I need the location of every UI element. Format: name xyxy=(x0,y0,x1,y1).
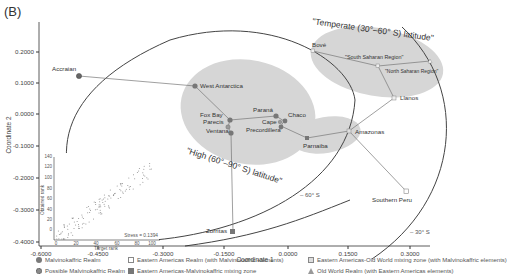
svg-text:0.0000: 0.0000 xyxy=(15,110,34,117)
svg-text:40: 40 xyxy=(47,207,53,212)
legend-item-ea-oldworld-mixing: Eastern Americas-Old World mixing zone (… xyxy=(308,257,507,263)
svg-text:Precordillera: Precordillera xyxy=(246,126,281,133)
svg-text:Parecis: Parecis xyxy=(203,118,224,125)
svg-text:0: 0 xyxy=(49,227,52,232)
point-llanos xyxy=(392,96,396,100)
svg-text:-0.3000: -0.3000 xyxy=(153,250,175,257)
svg-text:– 60° S: – 60° S xyxy=(300,192,320,198)
filled-square-icon xyxy=(128,268,134,274)
svg-text:Bové: Bové xyxy=(312,41,327,48)
svg-text:0.2000: 0.2000 xyxy=(15,48,34,55)
svg-text:– 30° S: – 30° S xyxy=(410,229,430,235)
boundary-high-lower xyxy=(185,200,350,246)
svg-text:0: 0 xyxy=(55,241,58,246)
svg-text:-0.4000: -0.4000 xyxy=(13,238,35,245)
x-axis-ticks: -0.6000 -0.4500 -0.3000 -0.1500 0.0000 0… xyxy=(31,246,421,257)
svg-text:100: 100 xyxy=(44,175,52,180)
hatched-circle-icon xyxy=(36,268,42,274)
point-accraian xyxy=(76,73,81,78)
svg-text:Zorritas: Zorritas xyxy=(206,227,227,234)
svg-text:Accraian: Accraian xyxy=(52,65,77,72)
point-zorritas xyxy=(230,229,235,234)
svg-text:120: 120 xyxy=(44,164,52,169)
svg-text:Target rank: Target rank xyxy=(94,246,119,251)
hatched-square-icon xyxy=(308,257,314,263)
svg-text:0.0000: 0.0000 xyxy=(279,250,298,257)
filled-circle-icon xyxy=(36,257,42,263)
svg-text:Parnaiba: Parnaiba xyxy=(303,142,328,149)
point-west-antarctica xyxy=(192,83,197,88)
svg-text:-0.4500: -0.4500 xyxy=(88,250,110,257)
svg-text:Chaco: Chaco xyxy=(288,111,306,118)
svg-text:-0.1000: -0.1000 xyxy=(13,142,35,149)
svg-text:Southern Peru: Southern Peru xyxy=(372,196,412,203)
legend-item-possible-malvinokaffric: Possible Malvinokaffric Realm xyxy=(36,268,125,274)
point-fox-bay xyxy=(227,117,232,122)
svg-text:100: 100 xyxy=(148,241,156,246)
svg-text:0.1000: 0.1000 xyxy=(15,79,34,86)
svg-text:West Antarctica: West Antarctica xyxy=(200,82,243,89)
svg-text:0.3000: 0.3000 xyxy=(401,250,420,257)
svg-text:"South Saharan Region": "South Saharan Region" xyxy=(345,54,403,60)
svg-text:140: 140 xyxy=(44,154,52,159)
point-cape xyxy=(278,120,282,124)
svg-text:"North Saharan Region": "North Saharan Region" xyxy=(385,68,439,74)
y-axis-label: Coordinate 2 xyxy=(5,116,12,154)
svg-text:-0.1500: -0.1500 xyxy=(214,250,236,257)
point-southern-peru xyxy=(404,189,409,194)
inset-shepard-plot: 0 20 40 60 80 100 120 140 0 20 40 60 80 … xyxy=(40,153,160,251)
svg-text:Fox Bay: Fox Bay xyxy=(200,111,224,118)
legend-item-malvinokaffric: Malvinokaffric Realm xyxy=(36,257,101,263)
svg-text:80: 80 xyxy=(47,186,53,191)
point-south-saharan xyxy=(376,64,380,68)
legend-item-old-world: Old World Realm (with Eastern Americas e… xyxy=(308,268,454,274)
svg-text:Obtained rank: Obtained rank xyxy=(40,184,45,215)
svg-text:-0.6000: -0.6000 xyxy=(31,250,53,257)
triangle-icon xyxy=(308,268,314,274)
svg-text:-0.3000: -0.3000 xyxy=(13,206,35,213)
svg-text:Cape: Cape xyxy=(262,118,277,125)
svg-text:Paraná: Paraná xyxy=(253,106,274,113)
svg-text:Ventana: Ventana xyxy=(206,127,229,134)
svg-text:0.1500: 0.1500 xyxy=(339,250,358,257)
open-square-icon xyxy=(128,257,134,263)
svg-text:20: 20 xyxy=(47,217,53,222)
svg-text:20: 20 xyxy=(73,241,79,246)
point-parnaiba xyxy=(305,136,309,140)
point-bove xyxy=(311,49,315,53)
svg-text:Stress = 0.1394: Stress = 0.1394 xyxy=(124,233,158,238)
svg-text:Llanos: Llanos xyxy=(400,94,418,101)
svg-text:Amazonas: Amazonas xyxy=(355,128,384,135)
y-axis-ticks: 0.2000 0.1000 0.0000 -0.1000 -0.2000 -0.… xyxy=(13,48,39,245)
point-ventana xyxy=(228,130,233,135)
legend-item-ea-malvinokaffric-mixing: Eastern Americas-Malvinokaffric mixing z… xyxy=(128,268,256,274)
svg-text:80: 80 xyxy=(134,241,140,246)
svg-text:60: 60 xyxy=(47,196,53,201)
point-chaco xyxy=(283,119,288,124)
legend-item-eastern-americas: Eastern Americas Realm (with Malvinokaff… xyxy=(128,257,284,263)
point-amazonas xyxy=(347,129,351,133)
svg-text:-0.2000: -0.2000 xyxy=(13,174,35,181)
